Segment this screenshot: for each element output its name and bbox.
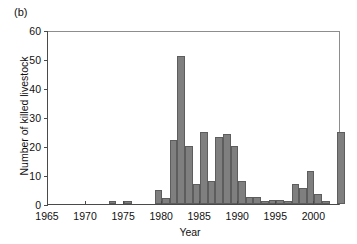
x-tick-mark [313,201,314,205]
bar [185,146,193,204]
y-tick-mark [44,60,48,61]
x-tick-mark [275,201,276,205]
y-tick-label: 50 [11,55,41,65]
bar [307,171,315,204]
y-tick-mark [44,118,48,119]
y-tick-label: 20 [11,142,41,152]
x-tick-label: 1995 [255,211,295,222]
bar [322,201,330,204]
x-tick-label: 1980 [141,211,181,222]
y-tick-mark [44,89,48,90]
bar [246,197,254,204]
bar [276,200,284,204]
x-tick-mark [47,201,48,205]
y-tick-label: 10 [11,171,41,181]
x-tick-mark [161,201,162,205]
x-tick-label: 2000 [293,211,333,222]
bar [314,194,322,204]
y-tick-mark [44,147,48,148]
bar [162,198,170,204]
bar [292,184,300,204]
bar [124,201,132,204]
y-tick-label: 60 [11,26,41,36]
y-tick-label: 30 [11,113,41,123]
bar [231,146,239,204]
panel-label: (b) [14,6,27,18]
bar [200,132,208,205]
x-tick-mark [123,201,124,205]
bar [284,201,292,204]
bar [337,132,345,205]
plot-area [47,31,340,205]
x-tick-mark [85,201,86,205]
x-tick-label: 1965 [27,211,67,222]
bar [208,181,216,204]
y-tick-mark [44,31,48,32]
bar [238,181,246,204]
x-axis-label: Year [40,226,340,238]
y-tick-label: 40 [11,84,41,94]
y-tick-label: 0 [11,200,41,210]
x-tick-mark [199,201,200,205]
bar [215,137,223,204]
bar [170,140,178,204]
bar [261,201,269,204]
x-tick-label: 1990 [217,211,257,222]
bar [223,134,231,204]
y-tick-mark [44,205,48,206]
bar [299,188,307,204]
x-tick-mark [237,201,238,205]
bar [253,197,261,204]
x-tick-label: 1985 [179,211,219,222]
x-tick-label: 1975 [103,211,143,222]
bar [177,56,185,204]
x-tick-label: 1970 [65,211,105,222]
y-tick-mark [44,176,48,177]
figure-panel-b: (b) Number of killed livestock 010203040… [0,0,357,244]
bar [109,201,117,204]
bar-series [48,32,339,204]
